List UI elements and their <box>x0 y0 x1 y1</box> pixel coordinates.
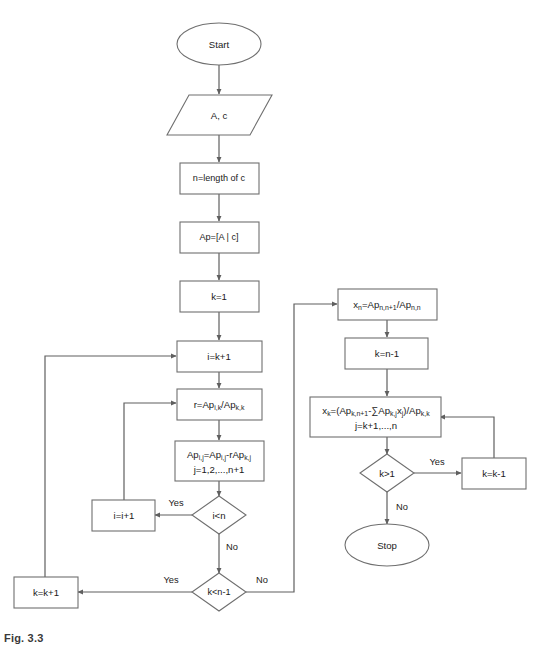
stop-label: Stop <box>377 540 397 551</box>
back-xk-label-line1: xk=(Apk,n+1-∑Apk,jxj)/Apk,k <box>322 405 430 418</box>
node-cond-i-lt-n: i<n <box>192 496 246 534</box>
k-init-label: k=1 <box>211 291 227 302</box>
node-k-decr: k=k-1 <box>462 458 526 489</box>
node-i-incr: i=i+1 <box>92 500 155 531</box>
edge-label-k-lt-n1-yes: Yes <box>163 575 179 585</box>
k-set-label: k=n-1 <box>375 348 399 359</box>
node-cond-k-gt-1: k>1 <box>360 454 414 492</box>
flowchart-canvas: Start A, c n=length of c Ap=[A | c] k=1 … <box>0 0 541 647</box>
input-label: A, c <box>211 110 228 121</box>
elim-box-shape <box>175 441 264 481</box>
cond-i-lt-n-label: i<n <box>212 510 225 521</box>
edge-kdecr-loopback-to-backxk <box>440 417 494 458</box>
k-decr-label: k=k-1 <box>482 468 506 479</box>
edge-iincr-loopback-to-ratio <box>124 403 176 500</box>
node-elim: Api,j=Api,j-rApk,j j=1,2,...,n+1 <box>175 441 264 481</box>
k-incr-label: k=k+1 <box>33 587 59 598</box>
edge-kincr-loopback-to-iinit <box>45 356 176 577</box>
cond-k-lt-n1-label: k<n-1 <box>207 587 230 597</box>
node-k-set: k=n-1 <box>345 338 428 369</box>
node-ratio: r=Api,k/Apk,k <box>177 389 262 420</box>
edge-label-k-lt-n1-no: No <box>256 575 268 585</box>
node-back-xn: xn=Apn,n+1/Apn,n <box>338 289 437 320</box>
node-augment: Ap=[A | c] <box>180 222 259 253</box>
back-xk-label-line2: j=k+1,...,n <box>354 420 397 431</box>
node-k-init: k=1 <box>180 281 259 312</box>
i-init-label: i=k+1 <box>207 351 230 362</box>
n-length-label: n=length of c <box>193 173 246 183</box>
edge-label-i-lt-n-yes: Yes <box>168 498 184 508</box>
i-incr-label: i=i+1 <box>114 510 135 521</box>
node-n-length: n=length of c <box>180 163 259 194</box>
elim-label-line1: Api,j=Api,j-rApk,j <box>187 449 252 462</box>
augment-label: Ap=[A | c] <box>199 232 238 242</box>
node-stop: Stop <box>345 524 429 566</box>
node-k-incr: k=k+1 <box>14 577 78 608</box>
edge-label-k-gt-1-yes: Yes <box>429 457 445 467</box>
back-xk-box-shape <box>310 397 441 437</box>
node-i-init: i=k+1 <box>177 341 262 372</box>
elim-label-line2: j=1,2,...,n+1 <box>193 464 245 475</box>
edge-label-i-lt-n-no: No <box>226 542 238 552</box>
node-cond-k-lt-n1: k<n-1 <box>192 573 246 611</box>
cond-k-gt-1-label: k>1 <box>379 468 395 479</box>
edge-label-k-gt-1-no: No <box>396 502 408 512</box>
node-start: Start <box>177 23 261 65</box>
node-back-xk: xk=(Apk,n+1-∑Apk,jxj)/Apk,k j=k+1,...,n <box>310 397 441 437</box>
figure-caption: Fig. 3.3 <box>4 632 44 647</box>
start-label: Start <box>209 39 230 50</box>
flowchart-svg: Start A, c n=length of c Ap=[A | c] k=1 … <box>0 0 541 647</box>
node-input: A, c <box>167 95 272 135</box>
